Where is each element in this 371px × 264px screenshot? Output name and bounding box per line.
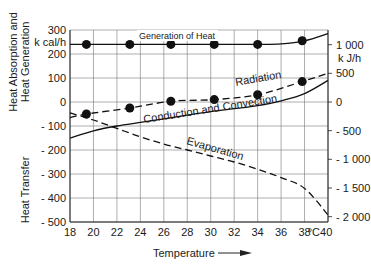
data-point-marker [166,97,175,106]
y-tick-left: - 500 [41,216,66,228]
data-point-marker [210,40,219,49]
y-tick-left: 200 [48,48,66,60]
y-tick-right: 0 [336,96,342,108]
arrow-right-icon [240,250,252,256]
x-tick-label: 24 [134,226,146,238]
data-point-marker [253,40,262,49]
data-point-marker [125,40,134,49]
annotation-generation-of-heat: Generation of Heat [139,31,216,41]
x-title: Temperature [153,247,215,259]
data-point-marker [125,104,134,113]
x-tick-label: 28 [181,226,193,238]
y-tick-right: 1 000 [336,39,364,51]
series-lines [70,34,328,215]
heat-balance-chart: 1820222426283032343638°C403002001000- 10… [0,0,371,264]
y-tick-left: 100 [48,72,66,84]
x-tick-label: 36 [275,226,287,238]
y-tick-left: 0 [60,96,66,108]
y-tick-left: - 100 [41,120,66,132]
y-tick-left: - 300 [41,168,66,180]
data-point-marker [82,40,91,49]
y-tick-right: - 500 [336,125,361,137]
y-unit-left: k cal/h [34,36,66,48]
y-title-bottom: Heat Transfer [19,156,31,223]
annotation-evaporation: Evaporation [185,134,245,162]
x-tick-label: 30 [205,226,217,238]
y-title-top-line2: Heat Generation [19,22,31,103]
data-point-marker [298,77,307,86]
x-tick-label: 20 [87,226,99,238]
x-tick-label: 32 [228,226,240,238]
x-tick-label: 22 [111,226,123,238]
x-tick-label: 34 [252,226,264,238]
y-title-top-line1: Heat Absorption and [7,12,19,112]
y-tick-right: 500 [336,67,354,79]
data-point-marker [166,40,175,49]
grid [70,30,328,222]
y-tick-left: - 400 [41,192,66,204]
annotation-radiation: Radiation [234,68,282,88]
y-unit-right: k J/h [338,52,361,64]
data-point-marker [298,36,307,45]
y-tick-left: 300 [48,24,66,36]
y-tick-right: - 1 000 [336,153,370,165]
x-tick-label: 26 [158,226,170,238]
x-tick-label: °C40 [308,226,333,238]
y-tick-right: - 1 500 [336,182,370,194]
y-tick-left: - 200 [41,144,66,156]
y-tick-right: - 2 000 [336,211,370,223]
